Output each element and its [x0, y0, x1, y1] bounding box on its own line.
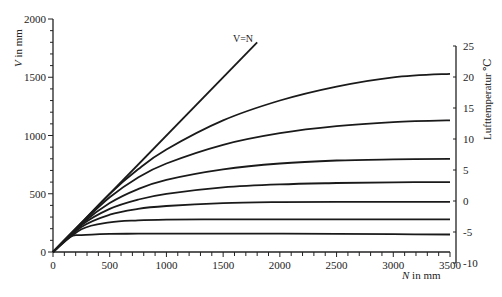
y-tick-label: 1500 — [24, 71, 47, 83]
series-curve — [53, 74, 450, 252]
y2-tick-label: 15 — [463, 102, 475, 114]
y-tick-label: 0 — [41, 246, 47, 258]
data-curves — [53, 42, 450, 252]
y2-tick-label: 10 — [463, 133, 475, 145]
x-tick-label: 2500 — [326, 259, 349, 271]
x-tick-label: 1500 — [212, 259, 235, 271]
y2-tick-label: 25 — [463, 40, 475, 52]
x-tick-label: 0 — [50, 259, 56, 271]
y2-axis-label: Lufttemperatur ℃ — [481, 58, 493, 140]
y2-tick-label: 20 — [463, 71, 475, 83]
series-curve — [53, 182, 450, 252]
x-tick-label: 1000 — [155, 259, 178, 271]
y-tick-label: 2000 — [24, 13, 47, 25]
chart: 0500100015002000050010001500200025003000… — [0, 0, 502, 297]
y-tick-label: 1000 — [24, 130, 47, 142]
y2-tick-label: -10 — [463, 257, 478, 269]
x-tick-label: 2000 — [269, 259, 292, 271]
series-curve — [53, 159, 450, 252]
series-curve — [53, 234, 450, 252]
ticks — [48, 19, 456, 263]
y2-tick-label: 5 — [463, 164, 469, 176]
y-axis-label: V in mm — [12, 29, 24, 67]
y-tick-label: 500 — [30, 188, 47, 200]
series-curve — [53, 202, 450, 252]
tick-labels: 0500100015002000050010001500200025003000… — [24, 13, 478, 271]
series-curve — [53, 219, 450, 252]
x-tick-label: 3500 — [439, 259, 462, 271]
reference-line-label: V=N — [233, 33, 253, 44]
x-axis-label: N in mm — [401, 269, 441, 281]
x-axis-label-rest: in mm — [409, 269, 441, 281]
axes — [53, 19, 456, 263]
x-tick-label: 500 — [101, 259, 118, 271]
y2-tick-label: -5 — [463, 226, 473, 238]
y2-tick-label: 0 — [463, 195, 469, 207]
